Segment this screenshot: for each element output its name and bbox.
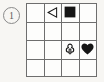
grid-cell-r2c2[interactable] bbox=[45, 23, 63, 41]
grid-cell-r1c1[interactable] bbox=[27, 4, 45, 23]
grid-cell-r2c3[interactable] bbox=[62, 23, 80, 41]
grid-cell-r4c3[interactable] bbox=[62, 60, 80, 78]
grid-cell-r2c1[interactable] bbox=[27, 23, 45, 41]
triangle-left-icon bbox=[47, 4, 58, 22]
grid-cell-r1c2[interactable] bbox=[45, 4, 63, 23]
grid-cell-r1c3[interactable] bbox=[62, 4, 80, 23]
grid-cell-r3c3[interactable] bbox=[62, 41, 80, 60]
heart-icon bbox=[81, 41, 94, 59]
grid-cell-r2c4[interactable] bbox=[80, 23, 98, 41]
grid-cell-r3c1[interactable] bbox=[27, 41, 45, 60]
grid-cell-r1c4[interactable] bbox=[80, 4, 98, 23]
item-number-badge: 1 bbox=[3, 7, 20, 24]
puzzle-grid bbox=[26, 3, 97, 77]
club-icon bbox=[64, 41, 76, 59]
grid-cell-r4c1[interactable] bbox=[27, 60, 45, 78]
grid-cell-r3c2[interactable] bbox=[45, 41, 63, 60]
figure-canvas: 1 bbox=[0, 0, 104, 82]
grid-cell-r4c4[interactable] bbox=[80, 60, 98, 78]
square-icon bbox=[64, 4, 76, 22]
grid-cell-r4c2[interactable] bbox=[45, 60, 63, 78]
grid-cell-r3c4[interactable] bbox=[80, 41, 98, 60]
